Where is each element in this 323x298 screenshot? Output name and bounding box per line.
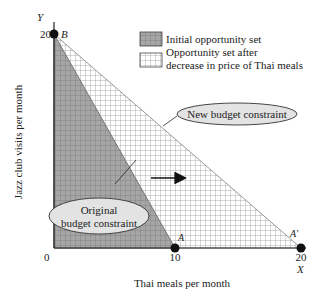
origin-label: 0 [44,251,50,263]
point-b-label: B [61,28,68,40]
x-tick-20: 20 [296,251,308,263]
legend-after-swatch [140,53,162,67]
y-axis-letter: Y [37,11,45,23]
new-budget-callout-label: New budget constraint [187,108,287,120]
legend-initial-swatch [140,32,162,46]
new-budget-callout-leader [163,116,177,126]
x-tick-10: 10 [170,251,182,263]
x-axis-title: Thai meals per month [134,277,231,289]
original-budget-callout-line1: Original [81,204,118,216]
original-budget-callout-line2: budget constraint [61,217,137,229]
legend-after-label-line1: Opportunity set after [166,46,258,58]
y-tick-20: 20 [40,28,52,40]
y-axis-title: Jazz club visits per month [12,84,24,199]
point-a-prime-label: A' [289,228,299,239]
legend-initial-label: Initial opportunity set [166,33,261,45]
x-axis-letter: X [296,263,305,275]
budget-constraint-diagram: Initial opportunity set Opportunity set … [0,0,323,298]
point-a-label: A [177,232,185,243]
legend-after-label-line2: decrease in price of Thai meals [166,59,303,71]
